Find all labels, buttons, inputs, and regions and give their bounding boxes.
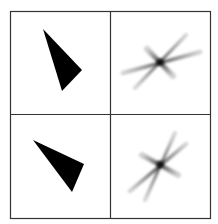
star-arms — [130, 133, 186, 200]
star-core — [157, 161, 163, 167]
panel-bottom-left — [33, 140, 84, 192]
panel-top-right — [123, 35, 200, 88]
panel-top-left — [43, 29, 82, 91]
panel-bottom-right — [130, 133, 186, 200]
diagram-figure — [0, 0, 218, 224]
star-core — [157, 59, 163, 65]
triangle-shape — [33, 140, 84, 192]
triangle-shape — [43, 29, 82, 91]
